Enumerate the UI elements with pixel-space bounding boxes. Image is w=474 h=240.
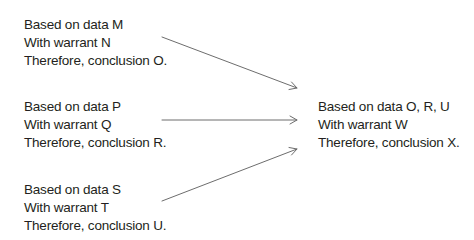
arrow-1-icon [162, 37, 297, 90]
arrow-2-icon [162, 116, 297, 124]
arrow-3-icon [162, 148, 297, 202]
arrows-layer [0, 0, 474, 240]
